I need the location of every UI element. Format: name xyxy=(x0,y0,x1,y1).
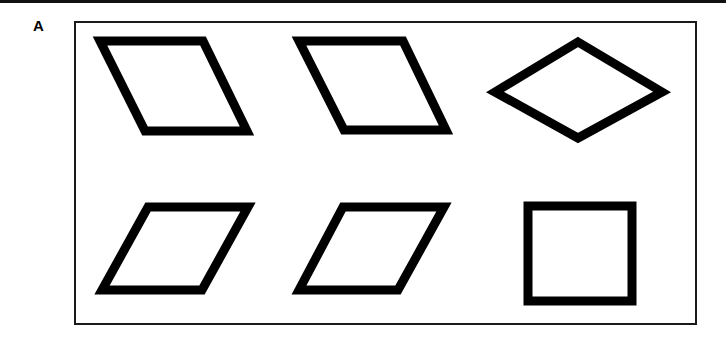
top-horizontal-rule xyxy=(0,0,726,3)
panel-border-frame xyxy=(74,21,697,325)
figure-panel: A xyxy=(0,0,726,345)
panel-label-a: A xyxy=(33,16,57,36)
